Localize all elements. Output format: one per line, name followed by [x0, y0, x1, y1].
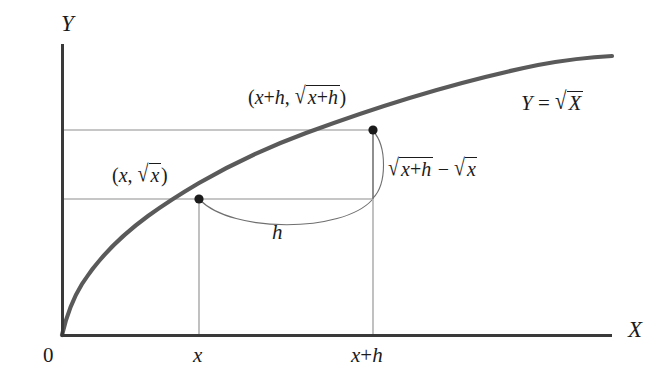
- delta-y-brace-arc: [373, 131, 384, 198]
- coord-comma: ,: [128, 164, 133, 186]
- radicand-h: h: [421, 158, 431, 180]
- figure-container: Y X 0 x x+h (x, √x) (x+h, √x+h) Y = √X √…: [0, 0, 667, 388]
- delta-x-brace-arc: [200, 200, 372, 225]
- radical-sqrt-X: √X: [555, 91, 583, 114]
- paren-close: ): [340, 86, 347, 108]
- radical-sign-icon: √: [555, 89, 567, 114]
- radicand-X: X: [567, 91, 583, 114]
- radical-sign-icon: √: [295, 83, 306, 107]
- point-label-upper: (x+h, √x+h): [248, 85, 346, 107]
- radicand-x: x: [401, 158, 410, 180]
- curve-equation-label: Y = √X: [521, 91, 583, 114]
- point-marker-upper: [368, 125, 377, 134]
- radicand-x-plus-h: x+h: [399, 157, 432, 179]
- x-axis-label: X: [628, 318, 642, 341]
- radicand-plus: +: [410, 158, 421, 180]
- radicand-h: h: [328, 86, 338, 108]
- radical-sqrt-x: √x: [138, 163, 161, 185]
- delta-y-label: √x+h − √x: [388, 157, 477, 179]
- x-tick-label-x: x: [193, 345, 202, 366]
- paren-open: (: [112, 164, 119, 186]
- radicand-x: x: [308, 86, 317, 108]
- equation-equals: =: [538, 91, 550, 115]
- radical-sqrt-x-plus-h: √x+h: [388, 157, 433, 179]
- equation-lhs: Y: [521, 91, 533, 115]
- radicand-x: x: [465, 157, 477, 179]
- delta-x-label: h: [272, 222, 283, 243]
- radical-sign-icon: √: [138, 161, 149, 185]
- tick-xh-h: h: [372, 343, 383, 367]
- radicand-plus: +: [317, 86, 328, 108]
- point-label-lower: (x, √x): [112, 163, 168, 185]
- coord-x: x: [255, 86, 264, 108]
- sqrt-graph-svg: [0, 0, 667, 388]
- tick-xh-plus: +: [360, 343, 372, 367]
- origin-label: 0: [43, 345, 54, 366]
- y-axis-label: Y: [61, 12, 74, 35]
- minus-sign: −: [438, 158, 449, 180]
- x-tick-label-x-plus-h: x+h: [351, 345, 383, 366]
- paren-open: (: [248, 86, 255, 108]
- radical-sign-icon: √: [454, 155, 465, 179]
- coord-comma: ,: [285, 86, 290, 108]
- radical-sqrt-x: √x: [454, 157, 477, 179]
- paren-close: ): [161, 164, 168, 186]
- radicand-x-plus-h: x+h: [306, 85, 339, 107]
- radical-sign-icon: √: [388, 155, 399, 179]
- point-marker-lower: [194, 194, 203, 203]
- radical-sqrt-x-plus-h: √x+h: [295, 85, 340, 107]
- radicand-x: x: [149, 163, 161, 185]
- coord-plus: +: [264, 86, 275, 108]
- coord-x: x: [119, 164, 128, 186]
- tick-xh-var: x: [351, 343, 360, 367]
- coord-h: h: [275, 86, 285, 108]
